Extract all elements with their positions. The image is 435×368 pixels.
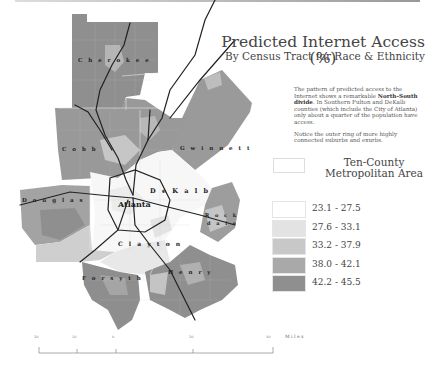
label-henry: H e n r y [168, 269, 212, 276]
label-cherokee: C h e r o k e e [78, 57, 151, 63]
description-paragraph-1: The pattern of predicted access to the I… [294, 86, 422, 126]
legend-swatch [272, 257, 306, 274]
label-dekalb: D e K a l b [150, 187, 210, 195]
label-cobb: C o b b [62, 146, 97, 152]
legend: 23.1 - 27.5 27.6 - 33.1 33.2 - 37.9 38.0… [272, 200, 422, 293]
map-subtitle: By Census Tract for Race & Ethnicity [225, 51, 425, 62]
scale-bar: 20 10 0 20 40 Miles [30, 333, 310, 363]
description-paragraph-2: Notice the outer ring of more highly con… [294, 131, 422, 144]
label-atlanta: Atlanta [117, 199, 151, 209]
map-description: The pattern of predicted access to the I… [294, 86, 422, 149]
legend-item: 23.1 - 27.5 [272, 200, 422, 219]
label-douglas: D o u g l a s [22, 197, 85, 204]
metro-area-swatch [273, 158, 305, 173]
label-forsyth: F o r s y t h [82, 275, 143, 282]
label-dale: d a l e [207, 220, 238, 226]
legend-swatch [272, 275, 306, 292]
label-clayton: C l a y t o n [118, 240, 182, 248]
metro-area-label: Ten-County Metropolitan Area [314, 157, 434, 179]
legend-item: 33.2 - 37.9 [272, 237, 422, 256]
legend-swatch [272, 238, 306, 255]
scale-bar-line [30, 333, 310, 363]
label-rock: R o c k [205, 212, 238, 218]
legend-item: 38.0 - 42.1 [272, 256, 422, 275]
legend-swatch [272, 220, 306, 237]
legend-swatch [272, 201, 306, 218]
legend-item: 42.2 - 45.5 [272, 274, 422, 293]
label-gwinnett: G w i n n e t t [180, 145, 252, 151]
legend-item: 27.6 - 33.1 [272, 219, 422, 238]
